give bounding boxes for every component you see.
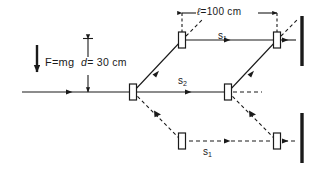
- dimension-d-label: d= 30 cm: [81, 57, 127, 68]
- beam-label-s2: s2: [178, 76, 187, 87]
- dimension-l-value: =100 cm: [201, 6, 242, 17]
- beam-middle-right-rise: [228, 40, 277, 92]
- splitter-upper-left: [179, 32, 186, 48]
- dimension-l-label: ℓ=100 cm: [197, 7, 241, 17]
- figure-canvas: F=mg d= 30 cm ℓ=100 cm s1 s2 s1: [0, 0, 317, 169]
- diagram-svg: [0, 0, 317, 169]
- beam-label-s1-bottom: s1: [203, 147, 212, 158]
- beam-upper-arm-rise: [133, 40, 182, 92]
- force-label: F=mg: [45, 57, 74, 68]
- beam-lower-arm-fall-dashed: [133, 92, 182, 141]
- stub-upper-right-dashed: [281, 20, 297, 36]
- beam-upper-horizontal: [182, 37, 277, 42]
- beam-middle-horizontal: [133, 89, 228, 94]
- dimension-d-value: = 30 cm: [87, 56, 127, 68]
- beam-middle-right-fall-dashed: [228, 92, 277, 141]
- beam-input-horizontal: [22, 89, 133, 94]
- splitter-middle-right: [225, 84, 232, 100]
- stub-upper-left-dashed: [186, 20, 202, 36]
- beam-label-s1-top: s1: [218, 31, 227, 42]
- splitter-lower-right: [274, 133, 281, 149]
- splitter-upper-right: [274, 32, 281, 48]
- splitter-input: [130, 84, 137, 100]
- beam-lower-horizontal-dashed: [182, 138, 277, 143]
- splitter-lower-left: [179, 133, 186, 149]
